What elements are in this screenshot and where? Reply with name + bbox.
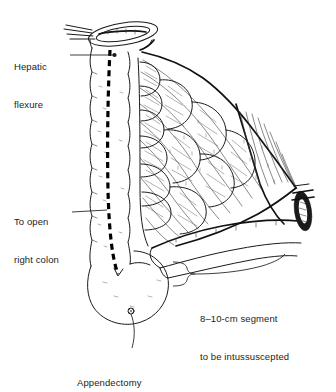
colon-surface-stipple xyxy=(98,86,124,247)
leader-lines xyxy=(70,53,134,348)
label-to-open-right-colon: To open right colon xyxy=(14,191,59,291)
label-appendectomy: Appendectomy xyxy=(77,352,142,392)
cecum xyxy=(88,251,169,324)
haustral-folds xyxy=(92,72,97,242)
hepatic-flexure-cut-end xyxy=(64,18,159,51)
dashed-incision-line xyxy=(108,50,123,276)
label-hepatic-flexure-line1: Hepatic xyxy=(14,61,47,74)
mesentery-stipple xyxy=(170,120,274,185)
epiploic-appendages xyxy=(140,62,255,234)
label-hepatic-flexure: Hepatic flexure xyxy=(14,36,47,136)
label-to-open-right-colon-line2: right colon xyxy=(14,254,59,267)
mesentery-fan xyxy=(138,52,297,246)
label-segment-line2: to be intussuscepted xyxy=(200,351,289,364)
mesentery-right-lobe xyxy=(236,104,297,224)
leader-to-open-right-colon xyxy=(72,210,107,212)
leader-appendectomy xyxy=(131,314,134,348)
label-segment-callout: 8–10-cm segment to be intussuscepted xyxy=(200,288,289,388)
bowel-clamp xyxy=(292,184,314,232)
label-to-open-right-colon-line1: To open xyxy=(14,216,59,229)
label-segment-line1: 8–10-cm segment xyxy=(200,313,289,326)
label-hepatic-flexure-line2: flexure xyxy=(14,99,47,112)
leader-endpoint-dot-hepatic xyxy=(112,53,116,57)
segment-bracket xyxy=(173,254,285,286)
label-appendectomy-line1: Appendectomy xyxy=(77,377,142,390)
cecum-stipple xyxy=(103,280,161,307)
appendix-stump xyxy=(128,308,134,314)
